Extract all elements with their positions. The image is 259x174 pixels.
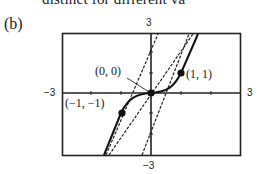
label-origin: (0, 0) bbox=[95, 64, 121, 79]
point-1-1 bbox=[177, 69, 184, 76]
graph-window bbox=[0, 0, 259, 174]
point-origin bbox=[147, 89, 154, 96]
point-neg1-neg1 bbox=[118, 109, 125, 116]
label-neg1-neg1: (−1, −1) bbox=[65, 96, 105, 111]
label-1-1: (1, 1) bbox=[186, 67, 212, 82]
